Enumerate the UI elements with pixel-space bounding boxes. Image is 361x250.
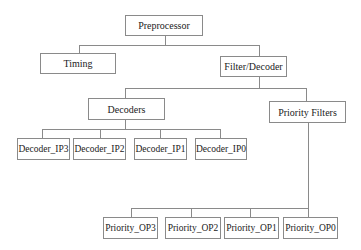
node-priority-op1: Priority_OP1 [224,217,279,239]
node-preprocessor: Preprocessor [125,15,203,36]
node-priority-op0: Priority_OP0 [283,217,338,239]
node-decoder-ip0: Decoder_IP0 [195,138,247,160]
node-decoder-ip1: Decoder_IP1 [134,138,187,160]
node-timing: Timing [40,53,116,74]
hierarchy-diagram: Preprocessor Timing Filter/Decoder Decod… [0,0,361,250]
node-decoder-ip3: Decoder_IP3 [17,138,70,160]
connector-lines [0,0,361,250]
node-priority-op3: Priority_OP3 [103,217,158,239]
node-priority-filters: Priority Filters [269,101,346,123]
node-filter-decoder: Filter/Decoder [220,56,287,77]
node-decoders: Decoders [88,98,165,120]
node-decoder-ip2: Decoder_IP2 [73,138,126,160]
node-priority-op2: Priority_OP2 [165,217,221,239]
